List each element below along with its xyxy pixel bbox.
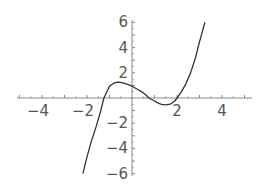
plot-area: −4−224 642−2−4−6 [0,0,263,188]
y-tick-label: −4 [106,139,128,157]
y-tick-label: −2 [106,114,128,132]
axes [17,20,252,176]
y-tick-label: −6 [106,165,128,183]
x-tick-label: −4 [27,102,49,120]
y-tick-label: 4 [118,39,128,57]
x-tick-label: 2 [172,102,182,120]
y-tick-label: 2 [118,64,128,82]
x-tick-label: −2 [72,102,94,120]
y-tick-label: 6 [118,13,128,31]
x-tick-label: 4 [217,102,227,120]
